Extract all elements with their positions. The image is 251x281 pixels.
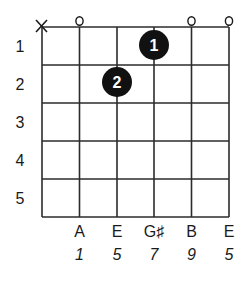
note-name: E <box>112 223 123 240</box>
interval: 1 <box>75 246 84 263</box>
fret-number: 4 <box>16 152 25 169</box>
interval: 5 <box>225 246 234 263</box>
open-string-marker <box>225 17 232 26</box>
finger-dot: 2 <box>102 67 132 97</box>
note-name: A <box>74 223 85 240</box>
note-name: G♯ <box>144 223 164 240</box>
fret-number: 1 <box>16 38 25 55</box>
fret-number: 5 <box>16 190 25 207</box>
finger-dot: 1 <box>139 30 169 60</box>
fretboard-grid <box>42 27 229 217</box>
interval: 9 <box>187 246 196 263</box>
note-name: B <box>186 223 197 240</box>
note-name: E <box>224 223 235 240</box>
open-string-marker <box>76 17 83 26</box>
chord-diagram: 1 2 3 4 5 1 2 A E G♯ B E 1 5 7 9 5 <box>0 0 251 281</box>
open-string-marker <box>188 17 195 26</box>
fret-number: 3 <box>16 114 25 131</box>
interval: 7 <box>150 246 160 263</box>
finger-number: 1 <box>150 37 159 54</box>
finger-number: 2 <box>113 74 122 91</box>
interval: 5 <box>113 246 122 263</box>
fret-number: 2 <box>16 76 25 93</box>
